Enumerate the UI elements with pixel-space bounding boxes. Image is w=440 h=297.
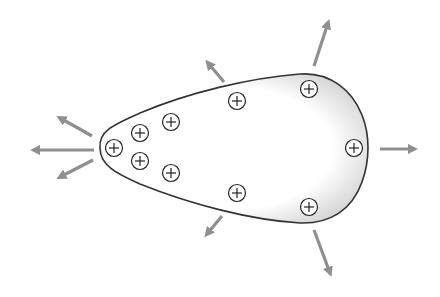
positive-charge-icon: [301, 81, 318, 98]
positive-charge-icon: [106, 140, 123, 157]
diagram-canvas: [0, 0, 440, 297]
arrow-bottom-right-icon: [314, 230, 330, 273]
positive-charge-icon: [132, 125, 149, 142]
arrow-upper-left-icon: [60, 118, 92, 136]
positive-charge-icon: [301, 199, 318, 216]
arrow-top-right-icon: [314, 23, 328, 66]
positive-charge-icon: [346, 140, 363, 157]
conductor-field-diagram: [0, 0, 440, 297]
positive-charge-icon: [132, 153, 149, 170]
arrow-bottom-small-icon: [207, 216, 222, 234]
positive-charge-icon: [229, 185, 246, 202]
arrow-top-small-icon: [208, 63, 224, 82]
positive-charge-icon: [229, 93, 246, 110]
positive-charge-icon: [163, 114, 180, 131]
positive-charge-icon: [163, 165, 180, 182]
arrow-lower-left-icon: [60, 160, 93, 177]
